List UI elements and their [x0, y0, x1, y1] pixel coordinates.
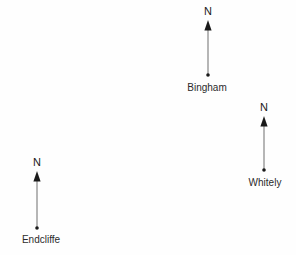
compass-marker-canvas: NBinghamNWhitelyNEndcliffe: [0, 0, 296, 255]
location-dot: [262, 168, 266, 172]
arrow-head: [260, 116, 267, 127]
arrow-head: [33, 171, 40, 182]
north-arrow-icon: [200, 20, 216, 81]
location-dot: [35, 226, 39, 230]
location-dot: [206, 73, 210, 77]
north-letter-label: N: [204, 6, 212, 17]
north-letter-label: N: [33, 157, 41, 168]
place-name-label: Whitely: [249, 177, 282, 188]
place-name-label: Endcliffe: [22, 234, 60, 245]
north-arrow-icon: [29, 171, 45, 234]
arrow-head: [204, 20, 211, 31]
north-letter-label: N: [260, 102, 268, 113]
place-name-label: Bingham: [187, 82, 226, 93]
north-arrow-icon: [256, 116, 272, 176]
